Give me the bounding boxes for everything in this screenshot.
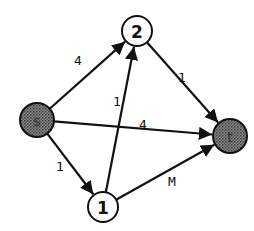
node-label: s	[33, 113, 40, 129]
node-1: 1	[88, 192, 118, 222]
node-s: s	[20, 103, 54, 137]
edge-capacity-label: M	[168, 174, 176, 189]
node-2: 2	[122, 16, 152, 46]
node-label: 1	[97, 198, 109, 218]
edge-capacity-label: 4	[139, 117, 147, 132]
node-label: 2	[131, 22, 143, 42]
edge-1-to-t	[116, 145, 214, 200]
edge-1-to-2	[106, 47, 134, 193]
edge-capacity-label: 1	[56, 159, 64, 174]
node-t: t	[213, 119, 247, 153]
edge-capacity-label: 4	[74, 53, 82, 68]
edge-capacity-label: 1	[113, 94, 121, 109]
edge-capacity-label: 1	[178, 70, 186, 85]
edges-group	[47, 42, 218, 200]
flow-network-diagram: 44111M s2t1	[0, 0, 254, 231]
edge-labels-group: 44111M	[56, 53, 186, 189]
edge-s-to-1	[47, 134, 93, 195]
node-label: t	[227, 129, 233, 145]
edge-s-to-t	[54, 121, 212, 134]
